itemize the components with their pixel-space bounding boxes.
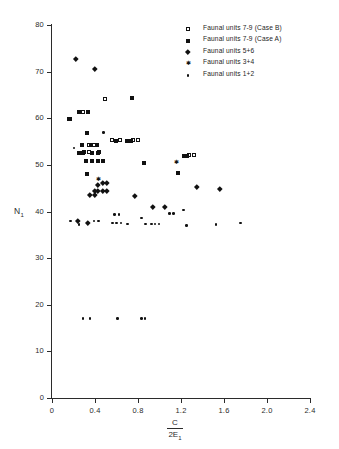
data-point bbox=[103, 97, 107, 101]
legend-label: Faunal units 5+6 bbox=[203, 47, 254, 54]
data-point bbox=[120, 222, 123, 225]
legend-label: Faunal units 1+2 bbox=[203, 70, 254, 77]
data-point bbox=[215, 223, 218, 226]
y-tick-label: 70 bbox=[18, 68, 44, 76]
x-tick bbox=[138, 399, 139, 403]
data-point bbox=[74, 56, 79, 61]
data-point bbox=[92, 66, 97, 71]
legend-item: Faunal units 7-9 (Case B) bbox=[185, 22, 335, 34]
data-point bbox=[81, 110, 85, 114]
dot-marker bbox=[187, 74, 190, 77]
data-point bbox=[92, 192, 97, 197]
data-point: ✱ bbox=[96, 177, 101, 182]
x-tick bbox=[95, 399, 96, 403]
data-point bbox=[150, 223, 153, 226]
legend-item: ✱Faunal units 3+4 bbox=[185, 57, 335, 69]
legend-item: Faunal units 1+2 bbox=[185, 68, 335, 80]
y-axis-title: N1 bbox=[14, 206, 24, 218]
legend-label: Faunal units 7-9 (Case A) bbox=[203, 35, 282, 42]
data-point bbox=[89, 317, 92, 320]
data-point bbox=[102, 131, 105, 134]
y-tick-label: 30 bbox=[18, 254, 44, 262]
data-point bbox=[239, 222, 242, 225]
star-marker: ✱ bbox=[186, 61, 191, 66]
data-point bbox=[78, 223, 81, 226]
x-tick-label: 2.0 bbox=[252, 406, 282, 415]
data-point bbox=[158, 223, 161, 226]
data-point bbox=[90, 159, 94, 163]
data-point bbox=[194, 184, 199, 189]
data-point bbox=[113, 213, 116, 216]
y-tick-label: 80 bbox=[18, 21, 44, 29]
data-point bbox=[172, 212, 175, 215]
filled-square-marker bbox=[186, 39, 190, 43]
data-point bbox=[114, 139, 118, 143]
x-tick-label: 1.2 bbox=[166, 406, 196, 415]
y-tick-label: 60 bbox=[18, 114, 44, 122]
legend-label: Faunal units 7-9 (Case B) bbox=[203, 24, 282, 31]
x-tick-label: 0.8 bbox=[123, 406, 153, 415]
data-point bbox=[185, 224, 188, 227]
data-point bbox=[77, 110, 81, 114]
data-point bbox=[96, 159, 100, 163]
y-tick-label: 20 bbox=[18, 301, 44, 309]
x-axis-title-denominator: 2E1 bbox=[155, 429, 195, 443]
x-axis-title: C 2E1 bbox=[155, 418, 195, 443]
data-point bbox=[81, 151, 85, 155]
data-point bbox=[104, 180, 109, 185]
y-tick-label: 50 bbox=[18, 161, 44, 169]
open-square-marker bbox=[186, 27, 190, 31]
data-point bbox=[90, 151, 94, 155]
data-point bbox=[111, 222, 114, 225]
data-point bbox=[142, 161, 146, 165]
x-tick bbox=[224, 399, 225, 403]
x-tick-label: 2.4 bbox=[295, 406, 325, 415]
data-point bbox=[162, 204, 167, 209]
data-point bbox=[86, 110, 90, 114]
x-tick-label: 0.4 bbox=[80, 406, 110, 415]
data-point bbox=[96, 151, 100, 155]
data-point bbox=[140, 317, 143, 320]
data-point bbox=[154, 223, 157, 226]
data-point bbox=[67, 117, 71, 121]
data-point bbox=[185, 154, 189, 158]
legend-marker bbox=[185, 71, 194, 80]
legend: Faunal units 7-9 (Case B)Faunal units 7-… bbox=[185, 22, 335, 80]
scatter-plot-figure: 01020304050607080 00.40.81.21.62.02.4 N1… bbox=[0, 0, 339, 449]
data-point bbox=[101, 159, 105, 163]
plot-area: ✱✱ bbox=[52, 25, 310, 398]
data-point bbox=[218, 187, 223, 192]
data-point bbox=[115, 222, 118, 225]
x-axis-title-denominator-subscript: 1 bbox=[178, 435, 181, 441]
data-point bbox=[192, 153, 196, 157]
data-point: ✱ bbox=[174, 160, 179, 165]
data-point bbox=[69, 220, 72, 223]
y-tick-label: 10 bbox=[18, 347, 44, 355]
x-tick-label: 0 bbox=[37, 406, 67, 415]
x-axis-title-numerator: C bbox=[155, 418, 195, 428]
data-point bbox=[73, 147, 76, 150]
data-point bbox=[144, 223, 147, 226]
data-point bbox=[80, 143, 84, 147]
data-point bbox=[129, 139, 133, 143]
data-point bbox=[132, 194, 137, 199]
data-point bbox=[150, 204, 155, 209]
x-tick bbox=[267, 399, 268, 403]
data-point bbox=[84, 159, 88, 163]
y-tick-label: 0 bbox=[18, 394, 44, 402]
legend-label: Faunal units 3+4 bbox=[203, 58, 254, 65]
data-point bbox=[126, 223, 129, 226]
data-point bbox=[136, 138, 140, 142]
data-point bbox=[93, 220, 96, 223]
data-point bbox=[104, 188, 109, 193]
data-point bbox=[89, 143, 93, 147]
data-point bbox=[130, 96, 134, 100]
y-axis-title-subscript: 1 bbox=[20, 212, 24, 218]
data-point bbox=[168, 212, 171, 215]
data-point bbox=[116, 317, 119, 320]
x-tick bbox=[310, 399, 311, 403]
x-tick bbox=[52, 399, 53, 403]
data-point bbox=[140, 217, 143, 220]
data-point bbox=[95, 143, 99, 147]
data-point bbox=[97, 220, 100, 223]
